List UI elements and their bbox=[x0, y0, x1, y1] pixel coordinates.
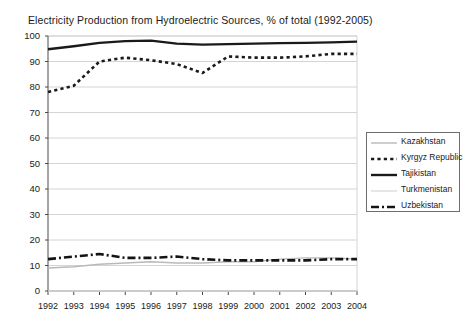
legend-item-label: Kazakhstan bbox=[401, 136, 445, 146]
y-axis-tick-label: 20 bbox=[16, 234, 40, 245]
legend-swatch-icon bbox=[370, 135, 398, 147]
y-axis-tick-label: 80 bbox=[16, 81, 40, 92]
y-axis-tick-label: 60 bbox=[16, 132, 40, 143]
legend-item-kyrgyz-republic[interactable]: Kyrgyz Republic bbox=[367, 149, 459, 165]
legend-item-turkmenistan[interactable]: Turkmenistan bbox=[367, 181, 459, 197]
legend-swatch-icon bbox=[370, 199, 398, 211]
legend-item-kazakhstan[interactable]: Kazakhstan bbox=[367, 133, 459, 149]
series-line-kyrgyz-republic bbox=[48, 54, 357, 92]
legend-item-label: Uzbekistan bbox=[401, 200, 443, 210]
y-axis-tick-label: 100 bbox=[16, 30, 40, 41]
y-axis-tick-label: 90 bbox=[16, 56, 40, 67]
data-series bbox=[48, 41, 357, 291]
y-axis-tick-label: 40 bbox=[16, 183, 40, 194]
y-axis-tick-label: 50 bbox=[16, 158, 40, 169]
legend-swatch-icon bbox=[370, 183, 398, 195]
legend-swatch-icon bbox=[370, 151, 398, 163]
chart-legend: KazakhstanKyrgyz RepublicTajikistanTurkm… bbox=[366, 132, 460, 212]
legend-item-label: Kyrgyz Republic bbox=[401, 152, 462, 162]
y-axis-tick-label: 30 bbox=[16, 209, 40, 220]
y-axis-tick-label: 70 bbox=[16, 107, 40, 118]
y-axis-tick-label: 10 bbox=[16, 260, 40, 271]
y-axis-tick-label: 0 bbox=[16, 285, 40, 296]
legend-swatch-icon bbox=[370, 167, 398, 179]
legend-item-label: Turkmenistan bbox=[401, 184, 452, 194]
legend-item-tajikistan[interactable]: Tajikistan bbox=[367, 165, 459, 181]
legend-item-uzbekistan[interactable]: Uzbekistan bbox=[367, 197, 459, 213]
legend-item-label: Tajikistan bbox=[401, 168, 436, 178]
x-axis-tick-label: 2004 bbox=[342, 301, 372, 311]
series-line-tajikistan bbox=[48, 41, 357, 50]
chart-page: Electricity Production from Hydroelectri… bbox=[0, 0, 466, 331]
axis-ticks bbox=[45, 36, 357, 295]
